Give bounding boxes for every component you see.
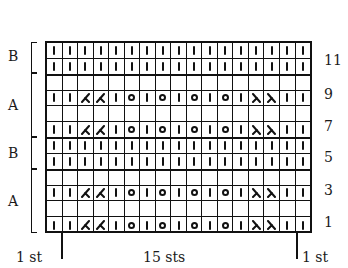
k2tog-decrease-icon — [95, 220, 106, 230]
knit-icon — [193, 62, 195, 71]
stitch-cell — [63, 106, 79, 122]
knit-icon — [193, 46, 195, 55]
stitch-cell — [156, 43, 172, 59]
knit-icon — [53, 157, 55, 166]
stitch-cell — [78, 217, 94, 233]
stitch-cell — [78, 138, 94, 154]
stitch-cell — [94, 43, 110, 59]
yarn-over-icon — [128, 222, 135, 229]
stitch-cell — [218, 43, 234, 59]
stitch-cell — [140, 138, 156, 154]
knit-icon — [240, 141, 242, 150]
row-number-5: 5 — [324, 149, 333, 165]
chart-row-7 — [47, 122, 310, 138]
stitch-cell — [264, 201, 280, 217]
knit-icon — [209, 125, 211, 134]
yarn-over-icon — [222, 126, 229, 133]
knit-icon — [302, 141, 304, 150]
stitch-cell — [296, 185, 311, 201]
stitch-cell — [47, 154, 63, 170]
knit-icon — [209, 188, 211, 197]
stitch-cell — [109, 138, 125, 154]
stitch-cell — [187, 75, 203, 91]
stitch-cell — [47, 122, 63, 138]
stitch-cell — [94, 185, 110, 201]
stitch-cell — [156, 185, 172, 201]
stitch-cell — [63, 122, 79, 138]
knit-icon — [69, 221, 71, 230]
stitch-cell — [78, 43, 94, 59]
stitch-cell — [94, 138, 110, 154]
stitch-cell — [264, 138, 280, 154]
yarn-over-icon — [222, 222, 229, 229]
stitch-cell — [156, 75, 172, 91]
stitch-cell — [47, 185, 63, 201]
stitch-cell — [125, 106, 141, 122]
stitch-cell — [109, 185, 125, 201]
stitch-cell — [233, 75, 249, 91]
stitch-cell — [187, 201, 203, 217]
stitch-cell — [78, 75, 94, 91]
stitch-cell — [125, 43, 141, 59]
stitch-cell — [202, 201, 218, 217]
yarn-over-icon — [159, 189, 166, 196]
knit-icon — [115, 125, 117, 134]
stitch-cell — [218, 75, 234, 91]
knit-icon — [178, 221, 180, 230]
stitch-cell — [280, 217, 296, 233]
stitch-cell — [280, 201, 296, 217]
stitch-cell — [140, 170, 156, 186]
stitch-cell — [187, 217, 203, 233]
k2tog-decrease-icon — [80, 188, 91, 198]
stitch-cell — [156, 217, 172, 233]
stitch-cell — [233, 185, 249, 201]
knit-icon — [286, 125, 288, 134]
stitch-cell — [171, 201, 187, 217]
knit-icon — [69, 62, 71, 71]
stitch-cell — [78, 170, 94, 186]
stitch-cell — [280, 43, 296, 59]
yarn-over-icon — [159, 222, 166, 229]
knit-icon — [69, 188, 71, 197]
stitch-cell — [296, 201, 311, 217]
stitch-cell — [94, 75, 110, 91]
knit-icon — [84, 62, 86, 71]
stitch-cell — [187, 43, 203, 59]
stitch-cell — [296, 154, 311, 170]
knit-icon — [240, 62, 242, 71]
stitch-cell — [249, 122, 265, 138]
chart-row-4 — [47, 170, 310, 186]
knit-icon — [53, 46, 55, 55]
stitch-cell — [63, 138, 79, 154]
knit-icon — [302, 62, 304, 71]
stitch-cell — [171, 90, 187, 106]
knit-icon — [100, 157, 102, 166]
stitch-cell — [218, 170, 234, 186]
knit-icon — [255, 141, 257, 150]
stitch-cell — [140, 122, 156, 138]
stitch-cell — [109, 90, 125, 106]
stitch-cell — [249, 217, 265, 233]
knit-icon — [224, 46, 226, 55]
stitch-cell — [156, 154, 172, 170]
stitch-cell — [78, 90, 94, 106]
knit-icon — [100, 46, 102, 55]
stitch-cell — [47, 59, 63, 75]
stitch-cell — [63, 59, 79, 75]
section-divider — [47, 74, 310, 76]
knit-icon — [193, 157, 195, 166]
stitch-cell — [156, 59, 172, 75]
knit-icon — [224, 62, 226, 71]
knit-icon — [178, 141, 180, 150]
stitch-cell — [109, 43, 125, 59]
yarn-over-icon — [128, 189, 135, 196]
stitch-cell — [125, 185, 141, 201]
stitch-cell — [125, 170, 141, 186]
knit-icon — [146, 46, 148, 55]
section-label-a: A — [8, 193, 18, 209]
knit-icon — [53, 188, 55, 197]
stitch-cell — [140, 90, 156, 106]
stitch-cell — [125, 90, 141, 106]
stitch-cell — [94, 170, 110, 186]
knit-icon — [286, 188, 288, 197]
